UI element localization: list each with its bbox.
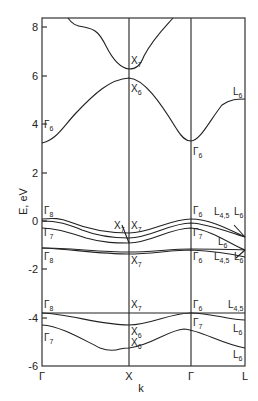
svg-text:L6: L6 — [218, 236, 228, 249]
svg-text:Γ6: Γ6 — [193, 251, 203, 264]
svg-text:Γ6: Γ6 — [193, 299, 203, 312]
ytick-label: -2 — [28, 263, 38, 275]
ytick-label: 0 — [32, 215, 38, 227]
svg-text:L6: L6 — [233, 349, 243, 362]
svg-text:Γ7: Γ7 — [193, 317, 203, 330]
svg-text:Γ7: Γ7 — [44, 332, 54, 345]
x-axis-label: k — [138, 382, 144, 394]
svg-text:X7: X7 — [131, 220, 142, 233]
y-ticks: 8 6 4 2 0 -2 -4 -6 — [28, 21, 47, 372]
svg-text:Γ8: Γ8 — [44, 205, 54, 218]
band-curve — [68, 18, 173, 69]
svg-text:X6: X6 — [131, 83, 142, 96]
xtick-label: X — [125, 370, 133, 382]
ytick-label: 2 — [32, 167, 38, 179]
band-curve — [42, 78, 245, 143]
svg-text:L4,5: L4,5 — [228, 299, 243, 312]
svg-text:Γ8: Γ8 — [44, 299, 54, 312]
ytick-label: 6 — [32, 70, 38, 82]
svg-text:Γ8: Γ8 — [44, 251, 54, 264]
svg-text:Γ6: Γ6 — [44, 119, 54, 132]
svg-text:X7: X7 — [131, 255, 142, 268]
ytick-label: 8 — [32, 21, 38, 33]
band-structure-plot: 8 6 4 2 0 -2 -4 -6 E, eV Γ X Γ L k — [0, 0, 258, 401]
band-curve — [42, 313, 245, 325]
ytick-label: -4 — [28, 312, 38, 324]
svg-text:Γ6: Γ6 — [193, 146, 203, 159]
svg-text:L6: L6 — [234, 206, 244, 219]
band-curve — [42, 325, 245, 350]
y-axis-label: E, eV — [17, 187, 29, 215]
xtick-label: L — [242, 370, 248, 382]
svg-text:L6: L6 — [233, 86, 243, 99]
svg-text:X7: X7 — [131, 299, 142, 312]
bands — [42, 18, 245, 350]
svg-text:Γ6: Γ6 — [193, 205, 203, 218]
svg-text:X7: X7 — [114, 220, 125, 233]
svg-text:Γ7: Γ7 — [193, 227, 203, 240]
ytick-label: -6 — [28, 360, 38, 372]
svg-text:L6: L6 — [233, 323, 243, 336]
xtick-label: Γ — [188, 370, 194, 382]
plot-frame — [42, 18, 245, 366]
svg-text:L4,5: L4,5 — [214, 206, 229, 219]
xtick-label: Γ — [39, 370, 45, 382]
ytick-label: 4 — [32, 118, 38, 130]
svg-text:X7: X7 — [131, 55, 142, 68]
